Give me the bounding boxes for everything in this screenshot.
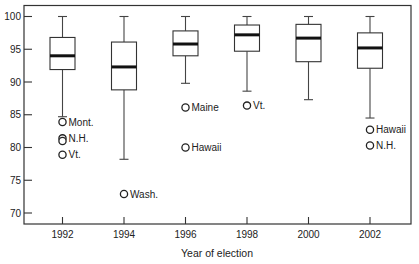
box-group-1998: Vt. xyxy=(235,17,266,112)
x-tick-label: 1994 xyxy=(113,229,136,240)
box-group-1992: Mont.N.H.Vt. xyxy=(50,17,94,161)
outlier-point xyxy=(59,151,66,158)
outlier-label: Hawaii xyxy=(192,142,222,153)
boxplot-chart: 707580859095100 199219941996199820002002… xyxy=(0,0,419,264)
y-tick-label: 70 xyxy=(10,208,22,219)
outlier-label: Vt. xyxy=(69,149,81,160)
x-axis-title: Year of election xyxy=(181,247,253,259)
outlier-point xyxy=(366,142,373,149)
y-tick-label: 85 xyxy=(10,109,22,120)
outlier-point xyxy=(120,190,127,197)
iqr-box xyxy=(296,24,321,61)
y-tick-label: 75 xyxy=(10,175,22,186)
outlier-point xyxy=(366,126,373,133)
y-tick-label: 95 xyxy=(10,44,22,55)
box-group-2000 xyxy=(296,17,321,100)
x-tick-label: 2000 xyxy=(297,229,320,240)
iqr-box xyxy=(358,33,383,68)
outlier-point xyxy=(59,137,66,144)
outlier-point xyxy=(182,144,189,151)
outlier-label: N.H. xyxy=(376,140,396,151)
outlier-label: Mont. xyxy=(69,117,94,128)
outlier-point xyxy=(243,102,250,109)
x-tick-label: 2002 xyxy=(359,229,382,240)
boxes-layer: Mont.N.H.Vt.Wash.MaineHawaiiVt.HawaiiN.H… xyxy=(50,17,406,200)
y-tick-label: 100 xyxy=(4,11,21,22)
iqr-box xyxy=(50,37,75,69)
y-axis: 707580859095100 xyxy=(4,11,32,219)
outlier-label: Maine xyxy=(192,102,220,113)
outlier-label: Hawaii xyxy=(376,124,406,135)
y-tick-label: 80 xyxy=(10,142,22,153)
iqr-box xyxy=(235,25,260,51)
box-group-1994: Wash. xyxy=(112,17,158,200)
x-tick-label: 1992 xyxy=(51,229,74,240)
y-tick-label: 90 xyxy=(10,77,22,88)
outlier-label: Vt. xyxy=(253,100,265,111)
outlier-label: Wash. xyxy=(130,189,158,200)
x-axis: 199219941996199820002002 xyxy=(51,217,381,240)
outlier-point xyxy=(182,104,189,111)
x-tick-label: 1996 xyxy=(174,229,197,240)
plot-frame xyxy=(24,6,411,225)
outlier-point xyxy=(59,118,66,125)
outlier-label: N.H. xyxy=(69,133,89,144)
box-group-2002: HawaiiN.H. xyxy=(358,17,407,152)
box-group-1996: MaineHawaii xyxy=(173,17,222,154)
x-tick-label: 1998 xyxy=(236,229,259,240)
